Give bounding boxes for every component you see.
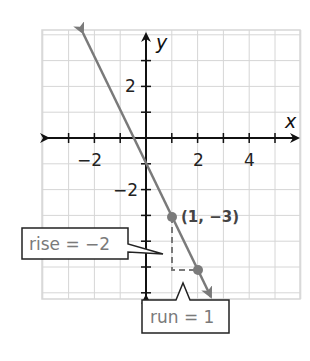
coordinate-plane: x y −2 2 4 2 −2 (1, −3) rise = −2 run = … [0,0,310,361]
y-tick-label-2: 2 [125,76,136,96]
x-tick-label-4: 4 [244,150,255,170]
x-tick-label-2: 2 [193,150,204,170]
point-2-neg5 [193,265,203,275]
rise-callout-text: rise = −2 [29,234,110,254]
point-label-1-neg3: (1, −3) [181,208,239,226]
point-1-neg3 [167,212,177,222]
x-tick-label-neg2: −2 [77,150,102,170]
y-axis-label: y [155,31,168,53]
y-tick-label-neg2: −2 [113,180,138,200]
run-callout-text: run = 1 [150,307,214,327]
x-axis-label: x [284,110,297,132]
